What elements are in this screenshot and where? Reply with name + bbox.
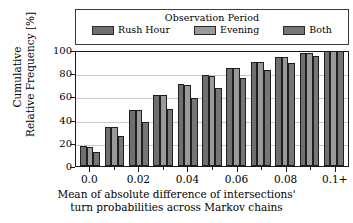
legend-label-evening: Evening (220, 25, 259, 35)
x-tick-label: 0.08 (266, 173, 306, 185)
legend-entry-evening: Evening (194, 25, 259, 35)
bar-rush-hour (324, 51, 331, 166)
bar-rush-hour (178, 84, 185, 166)
bar-rush-hour (275, 57, 282, 166)
x-tick-mark (138, 167, 139, 172)
legend-title: Observation Period (76, 10, 348, 23)
y-tick-label: 20 (42, 139, 72, 149)
bar-group (273, 52, 297, 166)
bar-evening (136, 110, 143, 166)
x-tick-mark (286, 167, 287, 172)
bar-group (249, 52, 273, 166)
x-axis-label: Mean of absolute difference of intersect… (0, 188, 353, 214)
y-axis-label-line1: Cumulative (11, 17, 24, 137)
bar-rush-hour (226, 68, 233, 166)
x-axis-label-line1: Mean of absolute difference of intersect… (0, 188, 353, 201)
bar-both (142, 122, 149, 166)
bar-group (297, 52, 321, 166)
bar-rush-hour (300, 53, 307, 166)
bar-group (102, 52, 126, 166)
bar-group (127, 52, 151, 166)
legend-label-both: Both (309, 25, 332, 35)
bar-evening (257, 62, 264, 166)
legend-entry-both: Both (283, 25, 332, 35)
x-tick-mark (187, 167, 188, 172)
bar-evening (184, 85, 191, 166)
chart-legend: Observation Period Rush Hour Evening Bot… (75, 9, 349, 45)
x-tick-mark (89, 167, 90, 172)
x-tick-mark (335, 167, 336, 172)
x-tick-label: 0.04 (167, 173, 207, 185)
x-tick-mark-minor (114, 167, 115, 170)
bar-group (78, 52, 102, 166)
y-tick-label: 100 (42, 46, 72, 56)
plot-area (75, 51, 349, 167)
bar-group (151, 52, 175, 166)
x-tick-mark-minor (261, 167, 262, 170)
bar-evening (111, 127, 118, 166)
x-tick-label: 0.02 (118, 173, 158, 185)
y-axis-label-line2: Relative Frequency [%] (24, 17, 37, 137)
x-tick-mark-minor (310, 167, 311, 170)
chart-figure: Observation Period Rush Hour Evening Bot… (0, 0, 353, 223)
bar-group (200, 52, 224, 166)
bar-evening (233, 68, 240, 166)
bar-both (264, 70, 271, 166)
bar-rush-hour (129, 110, 136, 166)
y-axis-label: Cumulative Relative Frequency [%] (11, 17, 37, 137)
bar-evening (282, 57, 289, 166)
bar-group (322, 52, 346, 166)
bar-both (313, 56, 320, 166)
x-tick-mark-minor (163, 167, 164, 170)
legend-entry-rush-hour: Rush Hour (92, 25, 170, 35)
legend-swatch-icon-rush-hour (92, 26, 114, 35)
bar-both (240, 78, 247, 166)
bar-both (191, 98, 198, 166)
bar-rush-hour (153, 95, 160, 166)
legend-swatch-icon-evening (194, 26, 216, 35)
bar-both (337, 51, 344, 166)
bar-evening (160, 95, 167, 166)
bar-both (215, 88, 222, 166)
bar-evening (330, 51, 337, 166)
x-tick-label: 0.06 (217, 173, 257, 185)
bar-rush-hour (202, 75, 209, 166)
bar-evening (306, 53, 313, 166)
x-tick-mark (237, 167, 238, 172)
y-tick-label: 80 (42, 69, 72, 79)
x-tick-mark-minor (212, 167, 213, 170)
x-axis-label-line2: turn probabilities across Markov chains (0, 201, 353, 214)
x-tick-label: 0.0 (69, 173, 109, 185)
bar-both (167, 109, 174, 166)
bar-rush-hour (251, 62, 258, 166)
bar-group (224, 52, 248, 166)
bar-both (118, 136, 125, 166)
bar-series-container (76, 52, 348, 166)
legend-entries: Rush Hour Evening Both (76, 23, 348, 35)
bar-both (93, 152, 100, 167)
bar-rush-hour (105, 127, 112, 166)
y-tick-label: 40 (42, 116, 72, 126)
bar-evening (209, 76, 216, 166)
legend-label-rush-hour: Rush Hour (118, 25, 170, 35)
y-tick-mark (70, 167, 75, 168)
y-tick-label: 0 (42, 162, 72, 172)
x-tick-label: 0.1+ (315, 173, 353, 185)
bar-evening (87, 147, 94, 166)
bar-both (288, 63, 295, 166)
y-tick-label: 60 (42, 92, 72, 102)
legend-swatch-icon-both (283, 26, 305, 35)
bar-rush-hour (80, 146, 87, 166)
bar-group (175, 52, 199, 166)
